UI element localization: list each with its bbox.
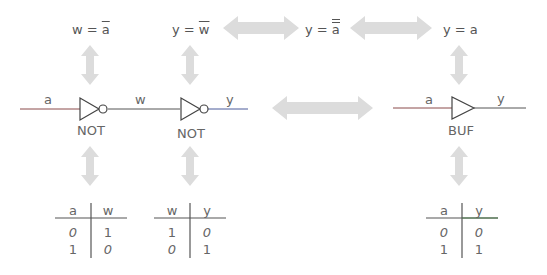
table-cell: 0 <box>98 243 118 256</box>
table-header: y <box>469 204 489 217</box>
wire-label-w: w <box>135 93 146 106</box>
double-arrow-vertical-icon <box>181 45 199 85</box>
table-header: a <box>434 204 454 217</box>
equation-negated-term: a <box>102 22 110 37</box>
not-gate-2-icon <box>181 98 208 120</box>
table-cell: 1 <box>434 243 454 256</box>
double-arrow-vertical-icon <box>450 45 468 85</box>
table-cell: 1 <box>162 226 182 239</box>
table-cell: 0 <box>197 226 217 239</box>
equation-lhs: y = <box>172 22 199 37</box>
table-cell: 1 <box>197 243 217 256</box>
gate-label-not-1: NOT <box>77 124 105 137</box>
equation-y-not-w: y = w <box>172 23 210 36</box>
equation-y-double-not-a: y = a <box>305 23 340 36</box>
table-header: a <box>63 204 83 217</box>
table-cell: 0 <box>162 243 182 256</box>
equation-y-equals-a: y = a <box>443 23 478 36</box>
table-cell: 1 <box>469 243 489 256</box>
equation-lhs: w = <box>72 22 102 37</box>
double-arrow-vertical-icon <box>81 146 99 186</box>
table-cell: 0 <box>434 226 454 239</box>
table-header: w <box>98 204 118 217</box>
table-cell: 0 <box>469 226 489 239</box>
table-cell: 1 <box>98 226 118 239</box>
double-arrow-horizontal-icon <box>350 16 432 40</box>
gate-label-not-2: NOT <box>177 127 205 140</box>
double-arrow-vertical-icon <box>450 146 468 186</box>
buffer-gate-icon <box>452 97 474 119</box>
double-arrow-vertical-icon <box>181 146 199 186</box>
table-cell: 1 <box>63 243 83 256</box>
double-arrow-vertical-icon <box>81 45 99 85</box>
wire-label-a: a <box>44 93 52 106</box>
not-gate-1-icon <box>80 98 107 120</box>
wire-label-a-buf: a <box>425 93 433 106</box>
double-arrow-horizontal-icon <box>223 16 299 40</box>
gate-label-buf: BUF <box>448 124 474 137</box>
double-arrow-horizontal-icon <box>272 96 373 120</box>
equation-double-negated-term: a <box>332 23 340 36</box>
wire-label-y-buf: y <box>497 92 505 105</box>
table-header: y <box>197 204 217 217</box>
equation-w-not-a: w = a <box>72 23 110 36</box>
equation-lhs: y = <box>305 22 332 37</box>
table-header: w <box>162 204 182 217</box>
wire-label-y: y <box>226 93 234 106</box>
table-cell: 0 <box>63 226 83 239</box>
equation-negated-term: w <box>199 22 210 37</box>
